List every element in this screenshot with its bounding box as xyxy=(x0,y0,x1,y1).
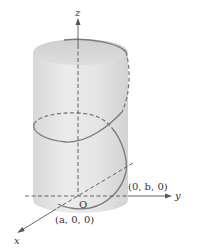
figure: z y x O (0, b, 0) (a, 0, 0) xyxy=(0,0,199,251)
origin-label: O xyxy=(79,199,87,210)
y-axis-label: y xyxy=(174,190,181,201)
point-x-intercept-label: (a, 0, 0) xyxy=(55,214,94,225)
helix-diagram: z y x O (0, b, 0) (a, 0, 0) xyxy=(0,0,199,251)
z-axis-label: z xyxy=(74,7,81,18)
cylinder-top xyxy=(33,39,128,65)
x-arrow-icon xyxy=(17,227,25,233)
z-arrow-icon xyxy=(76,18,81,25)
point-y-intercept-label: (0, b, 0) xyxy=(128,181,168,192)
x-axis-label: x xyxy=(14,235,20,246)
cylinder xyxy=(33,39,128,213)
y-arrow-icon xyxy=(165,194,172,199)
